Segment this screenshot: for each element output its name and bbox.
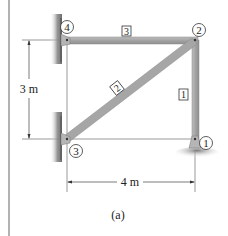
svg-text:1: 1 <box>181 89 186 100</box>
pin-bracket-4 <box>61 34 70 46</box>
svg-text:3: 3 <box>73 145 79 157</box>
dimension-height: 3 m <box>20 40 39 139</box>
truss-diagram: 4 2 3 1 3 1 2 3 m 4 m (a) <box>0 0 228 236</box>
member-2 <box>64 38 197 142</box>
pin-2 <box>194 39 196 41</box>
member-3 <box>64 37 198 44</box>
node-label-3: 3 <box>70 145 83 158</box>
member-1 <box>192 40 199 142</box>
svg-text:4: 4 <box>64 21 70 33</box>
svg-text:2: 2 <box>196 24 202 36</box>
pin-3 <box>66 138 68 140</box>
figure-caption: (a) <box>111 208 124 222</box>
svg-text:3 m: 3 m <box>20 82 39 96</box>
svg-text:3: 3 <box>124 26 129 37</box>
node-label-4: 4 <box>61 21 74 34</box>
wall-support-bottom <box>50 112 62 162</box>
member-label-3: 3 <box>122 26 131 37</box>
pin-4 <box>66 39 68 41</box>
node-label-2: 2 <box>193 24 206 37</box>
dimension-width: 4 m <box>67 175 195 189</box>
member-label-1: 1 <box>179 89 188 100</box>
ground-support <box>175 147 219 159</box>
svg-text:1: 1 <box>203 137 209 149</box>
wall-support-top <box>50 14 62 64</box>
pin-1 <box>194 138 196 140</box>
svg-text:4 m: 4 m <box>121 175 140 189</box>
node-label-1: 1 <box>200 137 213 150</box>
